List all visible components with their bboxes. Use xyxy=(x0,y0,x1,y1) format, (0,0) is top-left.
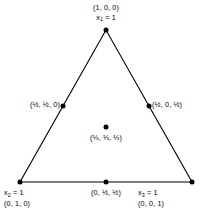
vertex-dot-x1 xyxy=(104,28,109,33)
bottom-right-vertex-label: x3 = 1 (0, 0, 1) xyxy=(138,188,206,208)
bottom-right-subscript: 3 xyxy=(142,192,145,198)
apex-subscript: 1 xyxy=(100,16,103,22)
left-midpoint-label: (½, ½, 0) xyxy=(0,100,60,110)
bottom-right-constraint-text: x3 = 1 xyxy=(138,188,206,199)
centroid-label: (⅓, ⅓, ⅓) xyxy=(56,133,156,143)
midpoint-dot-right xyxy=(147,104,152,109)
centroid-dot xyxy=(104,125,109,130)
midpoint-dot-left xyxy=(61,104,66,109)
bottom-right-coords-text: (0, 0, 1) xyxy=(138,199,206,209)
bottom-right-equals: = 1 xyxy=(145,188,158,197)
simplex-diagram: (1, 0, 0) x1 = 1 (½, ½, 0) (½, 0, ½) (⅓,… xyxy=(0,0,210,215)
apex-coords-text: (1, 0, 0) xyxy=(56,3,156,13)
bottom-left-equals: = 1 xyxy=(11,188,24,197)
apex-equals: = 1 xyxy=(103,13,116,22)
bottom-left-coords-text: (0, 1, 0) xyxy=(4,199,74,209)
vertex-dot-x3 xyxy=(190,180,195,185)
apex-constraint-text: x1 = 1 xyxy=(56,13,156,24)
bottom-left-subscript: 2 xyxy=(8,192,11,198)
bottom-left-constraint-text: x2 = 1 xyxy=(4,188,74,199)
vertex-dot-x2 xyxy=(18,180,23,185)
midpoint-dot-bottom xyxy=(104,180,109,185)
bottom-left-vertex-label: x2 = 1 (0, 1, 0) xyxy=(4,188,74,208)
apex-label: (1, 0, 0) x1 = 1 xyxy=(56,3,156,23)
right-midpoint-label: (½, 0, ½) xyxy=(152,100,210,110)
